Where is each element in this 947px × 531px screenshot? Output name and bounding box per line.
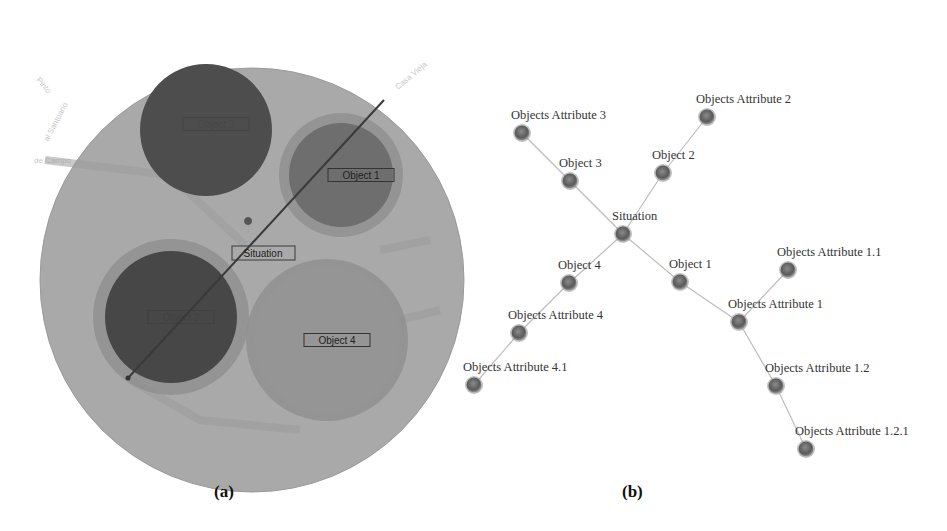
map-label: Pinto <box>34 76 53 96</box>
object-region-object-3[interactable]: Object 3 <box>140 64 272 196</box>
graph-edge <box>623 173 663 234</box>
node-label: Objects Attribute 4.1 <box>463 360 568 374</box>
node-circle[interactable] <box>512 326 527 341</box>
graph-edge <box>776 386 806 449</box>
object-region-object-1[interactable]: Object 1 <box>279 113 403 237</box>
node-circle[interactable] <box>467 378 482 393</box>
node-circle[interactable] <box>781 263 796 278</box>
node-circle[interactable] <box>732 315 747 330</box>
graph-node-attr-3[interactable]: Objects Attribute 3 <box>511 108 606 142</box>
node-circle[interactable] <box>673 275 688 290</box>
graph-nodes: SituationObject 3Objects Attribute 3Obje… <box>463 92 909 458</box>
node-label: Objects Attribute 4 <box>508 308 604 322</box>
node-circle[interactable] <box>799 442 814 457</box>
node-label: Object 2 <box>652 148 695 162</box>
graph-node-attr-4[interactable]: Objects Attribute 4 <box>508 308 604 342</box>
object-label: Object 1 <box>342 170 380 181</box>
map-label: Casa Vieja <box>394 60 430 92</box>
map-situation-view: Pinto al Santuario de Campo Casa Vieja A… <box>34 60 464 492</box>
graph-node-attr-1-2-1[interactable]: Objects Attribute 1.2.1 <box>795 424 909 458</box>
figure: Pinto al Santuario de Campo Casa Vieja A… <box>0 0 947 531</box>
graph-node-object-1[interactable]: Object 1 <box>669 257 712 291</box>
graph-node-object-4[interactable]: Object 4 <box>558 258 601 292</box>
graph-node-attr-1-1[interactable]: Objects Attribute 1.1 <box>777 245 882 279</box>
object-region-object-2[interactable]: Object 2 <box>93 239 249 395</box>
graph-node-attr-1[interactable]: Objects Attribute 1 <box>728 297 823 331</box>
situation-graph: SituationObject 3Objects Attribute 3Obje… <box>463 92 909 458</box>
node-label: Objects Attribute 1 <box>728 297 823 311</box>
graph-edge <box>474 333 519 385</box>
graph-edges <box>474 117 806 449</box>
node-circle[interactable] <box>769 379 784 394</box>
graph-node-object-2[interactable]: Object 2 <box>652 148 695 182</box>
node-label: Object 4 <box>558 258 601 272</box>
map-label: al Santuario <box>42 101 70 143</box>
node-label: Object 3 <box>559 156 602 170</box>
node-label: Objects Attribute 3 <box>511 108 606 122</box>
node-circle[interactable] <box>656 166 671 181</box>
node-label: Objects Attribute 1.2 <box>765 361 870 375</box>
trajectory-end-point <box>126 376 131 381</box>
graph-edge <box>570 181 623 234</box>
graph-edge <box>739 322 776 386</box>
node-label: Objects Attribute 2 <box>696 92 791 106</box>
caption-b: (b) <box>622 482 643 502</box>
caption-a: (a) <box>214 482 234 502</box>
node-circle[interactable] <box>562 276 577 291</box>
graph-node-attr-2[interactable]: Objects Attribute 2 <box>696 92 791 126</box>
node-circle[interactable] <box>563 174 578 189</box>
node-circle[interactable] <box>616 227 631 242</box>
graph-edge <box>663 117 707 173</box>
graph-node-attr-4-1[interactable]: Objects Attribute 4.1 <box>463 360 568 394</box>
graph-node-object-3[interactable]: Object 3 <box>559 156 602 190</box>
graph-edge <box>739 270 788 322</box>
object-label: Object 3 <box>197 119 235 130</box>
node-circle[interactable] <box>515 126 530 141</box>
object-region-object-4[interactable]: Object 4 <box>246 259 408 421</box>
graph-node-attr-1-2[interactable]: Objects Attribute 1.2 <box>765 361 870 395</box>
object-label: Object 4 <box>318 335 356 346</box>
graph-node-situation[interactable]: Situation <box>612 209 658 243</box>
node-label: Objects Attribute 1.2.1 <box>795 424 909 438</box>
situation-label: Situation <box>244 248 283 259</box>
node-circle[interactable] <box>700 110 715 125</box>
node-label: Objects Attribute 1.1 <box>777 245 882 259</box>
node-label: Situation <box>612 209 658 223</box>
node-label: Object 1 <box>669 257 712 271</box>
